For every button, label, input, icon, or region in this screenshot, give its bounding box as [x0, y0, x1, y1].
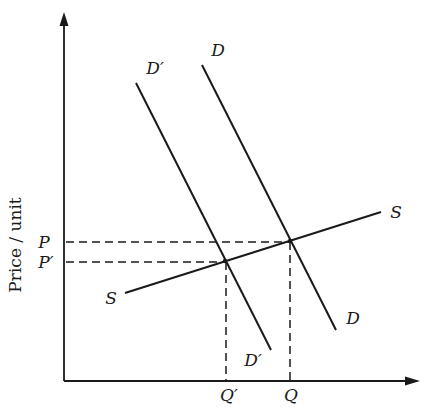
demand-prime-label-top: D′: [145, 58, 164, 78]
demand-prime-label-bottom: D′: [243, 350, 262, 370]
y-axis: [60, 12, 69, 381]
equilibrium-point-e: [288, 239, 292, 243]
x-axis: [64, 377, 420, 386]
demand-curve-d: [202, 65, 336, 330]
supply-demand-diagram: Price / unit P P′ Q′ Q S S D D D′ D′: [0, 0, 434, 420]
y-axis-arrow-icon: [60, 12, 69, 26]
demand-curve-d-prime: [136, 83, 271, 350]
p-tick-label: P: [37, 232, 50, 252]
y-axis-label: Price / unit: [5, 197, 25, 292]
supply-label-left: S: [105, 288, 117, 308]
demand-label-bottom: D: [345, 308, 360, 328]
x-axis-arrow-icon: [405, 377, 420, 386]
demand-label-top: D: [210, 40, 225, 60]
supply-label-right: S: [390, 202, 402, 222]
supply-curve: [125, 212, 381, 293]
p-prime-tick-label: P′: [37, 252, 53, 272]
equilibrium-point-e-prime: [223, 259, 227, 263]
q-tick-label: Q: [284, 385, 298, 405]
q-prime-tick-label: Q′: [220, 385, 238, 405]
